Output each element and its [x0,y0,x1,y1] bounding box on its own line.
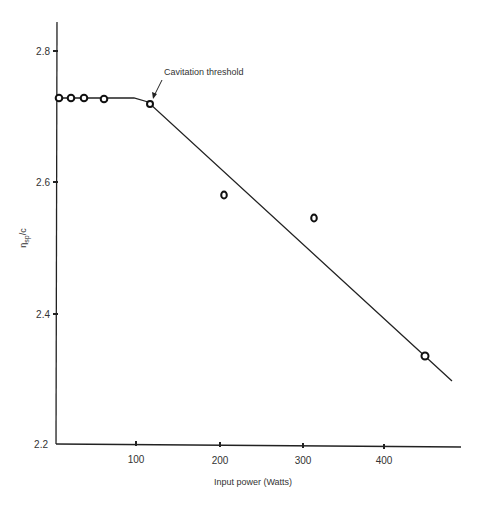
x-tick-400: 400 [376,455,393,466]
x-axis-label: Input power (Watts) [214,477,292,487]
y-tick-2.4: 2.4 [36,309,50,320]
x-tick-200: 200 [212,455,229,466]
x-tick-100: 100 [128,454,145,465]
annotation-cavitation-threshold: Cavitation threshold [164,67,244,77]
y-axis [56,22,57,444]
y-tick-2.6: 2.6 [36,177,50,188]
x-axis [56,444,461,447]
y-axis-label: ηsp/c [18,228,31,248]
svg-text:ηsp/c: ηsp/c [18,228,31,248]
fit-line [58,98,452,381]
x-tick-300: 300 [295,455,312,466]
data-points [56,95,429,360]
y-tick-2.8: 2.8 [36,46,50,57]
y-tick-2.2: 2.2 [34,439,48,450]
chart-svg: 2.8 2.6 2.4 2.2 100 200 300 400 Input po… [0,0,481,508]
chart: 2.8 2.6 2.4 2.2 100 200 300 400 Input po… [0,0,481,508]
